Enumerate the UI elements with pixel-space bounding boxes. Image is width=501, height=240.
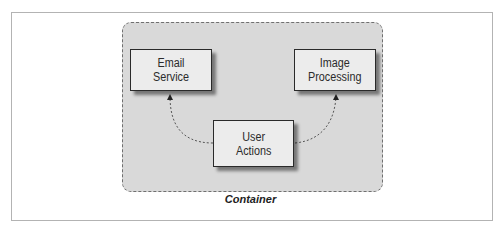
edge-user-to-image (295, 96, 336, 143)
node-image-processing: Image Processing (294, 49, 376, 91)
arrowhead-image-icon (333, 94, 339, 100)
node-user-actions: User Actions (213, 120, 294, 167)
container-label: Container (0, 193, 501, 205)
node-label-line2: Processing (308, 70, 361, 84)
node-label-line1: Image (308, 56, 361, 70)
node-email-service: Email Service (130, 49, 212, 91)
node-label-line1: Email (153, 56, 189, 70)
node-label-line2: Service (153, 70, 189, 84)
edge-user-to-email (170, 96, 213, 143)
node-label-line2: Actions (236, 144, 271, 158)
arrowhead-email-icon (167, 94, 173, 100)
node-label-line1: User (236, 130, 271, 144)
